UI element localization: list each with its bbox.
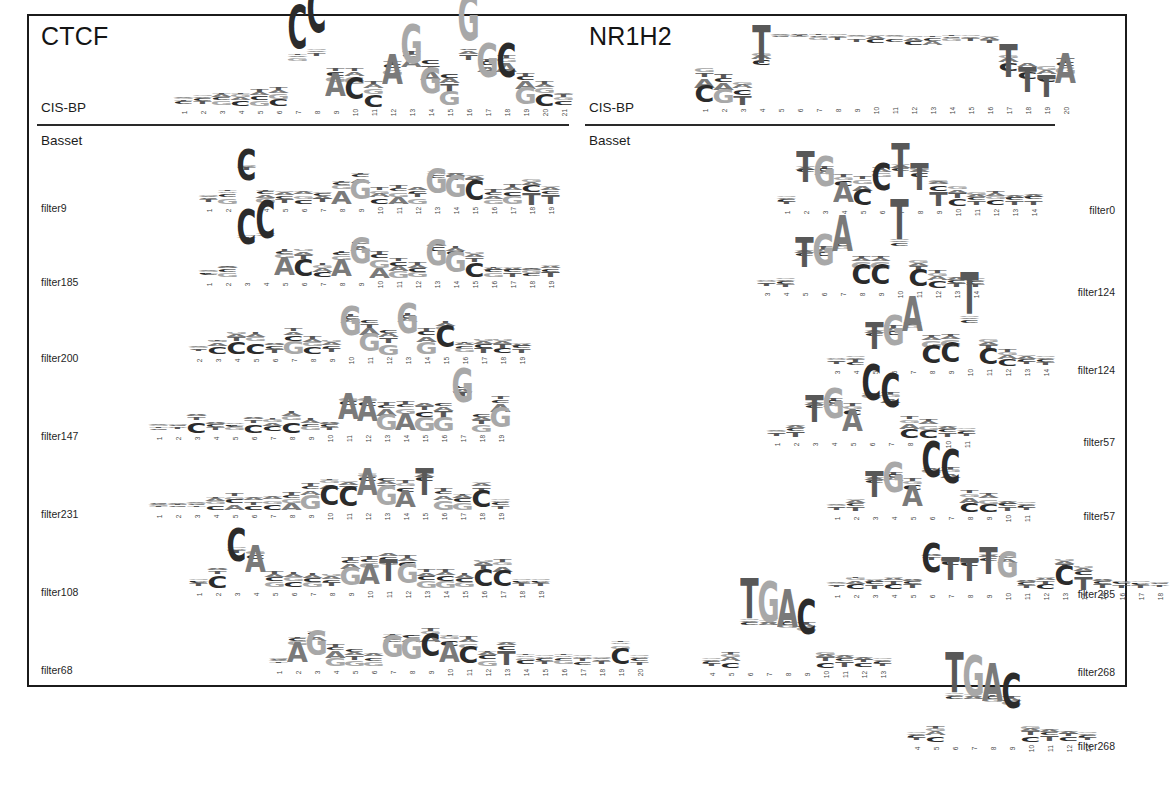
- axis-tick: 15: [440, 103, 459, 116]
- logo-column: TACG: [398, 538, 417, 584]
- logo-letter-G: G: [263, 582, 285, 584]
- page-title: NR1H2: [589, 22, 672, 51]
- logo-letter-T: T: [733, 96, 751, 100]
- logo-letter-C: C: [294, 259, 314, 274]
- filter-label-filter124-b: filter124: [1078, 364, 1115, 376]
- logo-column: TGCA: [396, 462, 415, 506]
- axis-tick: 5: [225, 507, 244, 520]
- axis-tick: 18: [497, 103, 516, 116]
- axis-tick: 1: [189, 585, 208, 598]
- axis-tick: 18: [493, 351, 512, 364]
- logo-letter-T: T: [503, 273, 521, 274]
- logo-column: TCGA: [332, 156, 351, 200]
- axis-tick: 14: [446, 275, 465, 288]
- logo-letter-C: C: [922, 346, 942, 362]
- logo-column: GATC: [227, 538, 246, 584]
- logo-column: GACT: [795, 234, 814, 284]
- cisbp-label: CIS-BP: [589, 100, 634, 115]
- logo-column: TCAG: [402, 618, 421, 662]
- logo-column: GATC: [1021, 690, 1040, 738]
- logo-letter-T: T: [904, 0, 922, 100]
- logo-column: CATG: [472, 382, 491, 428]
- logo-column: TGAC: [370, 156, 389, 200]
- logo-column: TACG: [212, 46, 231, 102]
- logo-column: TGAC: [900, 386, 919, 434]
- axis-tick: 8: [303, 351, 322, 364]
- logo-column: AGCT: [767, 386, 786, 434]
- axis-tick: 11: [459, 663, 478, 676]
- axis-tick: 4: [884, 509, 903, 522]
- axis-tick: 11: [1017, 509, 1036, 522]
- axis-tick: 17: [1131, 587, 1150, 600]
- logo-letter-T: T: [948, 194, 966, 195]
- logo-letter-T: T: [275, 199, 293, 200]
- axis-tick: 19: [541, 201, 560, 214]
- logo-letter-C: C: [187, 423, 207, 428]
- logo-column: CATG: [434, 382, 453, 428]
- axis-tick: 1: [695, 101, 714, 114]
- logo-column: TCAG: [341, 304, 360, 350]
- logo-letter-C: C: [265, 578, 285, 579]
- filter124-a-logo: AGCTGACTGACTTACGTCGATAGCTAGCGACTGATCTGAC…: [757, 234, 985, 298]
- logo-letter-G: G: [280, 417, 302, 418]
- logo-stack: AGTCGCATGATCGACTATCGGATCTGACTAGCTACGGACT…: [149, 382, 510, 428]
- logo-letter-C: C: [231, 101, 251, 102]
- logo-column: TGAC: [941, 460, 960, 508]
- logo-column: TAGC: [852, 234, 871, 284]
- axis-tick: 2: [846, 587, 865, 600]
- logo-letter-C: C: [1002, 675, 1022, 738]
- logo-column: GACT: [1093, 540, 1112, 586]
- logo-column: GATC: [208, 538, 227, 584]
- logo-letter-C: C: [465, 263, 485, 274]
- axis-tick: 11: [339, 507, 358, 520]
- logo-column: TAGC: [922, 460, 941, 508]
- axis-tick: 5: [843, 435, 862, 448]
- logo-column: TGCA: [225, 462, 244, 506]
- logo-column: GACT: [497, 618, 516, 662]
- logo-letter-T: T: [360, 324, 378, 325]
- logo-letter-T: T: [1005, 201, 1023, 202]
- logo-letter-A: A: [833, 184, 854, 202]
- axis-tick: 12: [1036, 587, 1055, 600]
- logo-letter-C: C: [474, 345, 494, 346]
- logo-letter-T: T: [322, 349, 340, 350]
- logo-column: GATC: [465, 156, 484, 200]
- logo-column: TCGA: [1056, 34, 1075, 100]
- axis-tick: 8: [332, 275, 351, 288]
- axis-tick: 16: [474, 585, 493, 598]
- axis-tick: 3: [212, 103, 231, 116]
- logo-column: TACG: [503, 156, 522, 200]
- logo-column: TAGC: [872, 154, 891, 202]
- logo-column: TAGC: [206, 462, 225, 506]
- axis-tick: 5: [246, 351, 265, 364]
- axis-tick: 8: [332, 201, 351, 214]
- axis-tick: 11: [1040, 739, 1059, 752]
- logo-column: TGCA: [339, 382, 358, 428]
- logo-letter-C: C: [998, 360, 1018, 362]
- axis-tick: 19: [491, 429, 510, 442]
- logo-column: TAGC: [535, 46, 554, 102]
- axis-tick: 17: [999, 101, 1018, 114]
- logo-column: TCAG: [714, 34, 733, 100]
- logo-axis-ticks: 12345678910111213141516171819: [189, 585, 550, 598]
- logo-letter-C: C: [313, 273, 333, 274]
- logo-column: GACT: [491, 462, 510, 506]
- page-title: CTCF: [41, 22, 108, 51]
- logo-letter-G: G: [482, 273, 504, 274]
- logo-letter-A: A: [941, 0, 962, 100]
- logo-letter-C: C: [695, 85, 715, 100]
- logo-letter-C: C: [922, 441, 942, 508]
- filter-label-filter57-b: filter57: [1083, 510, 1115, 522]
- filter147-logo: AGTCGCATGATCGACTATCGGATCTGACTAGCTACGGACT…: [149, 382, 510, 442]
- logo-column: GATC: [187, 382, 206, 428]
- logo-letter-A: A: [325, 652, 346, 654]
- axis-tick: 11: [885, 101, 904, 114]
- logo-column: TCAG: [815, 154, 834, 202]
- logo-letter-C: C: [872, 163, 892, 202]
- logo-column: GATC: [493, 304, 512, 350]
- logo-column: TCGA: [389, 156, 408, 200]
- axis-tick: 6: [740, 665, 759, 678]
- logo-letter-A: A: [925, 732, 946, 733]
- logo-column: TGAC: [493, 538, 512, 584]
- axis-tick: 7: [833, 285, 852, 298]
